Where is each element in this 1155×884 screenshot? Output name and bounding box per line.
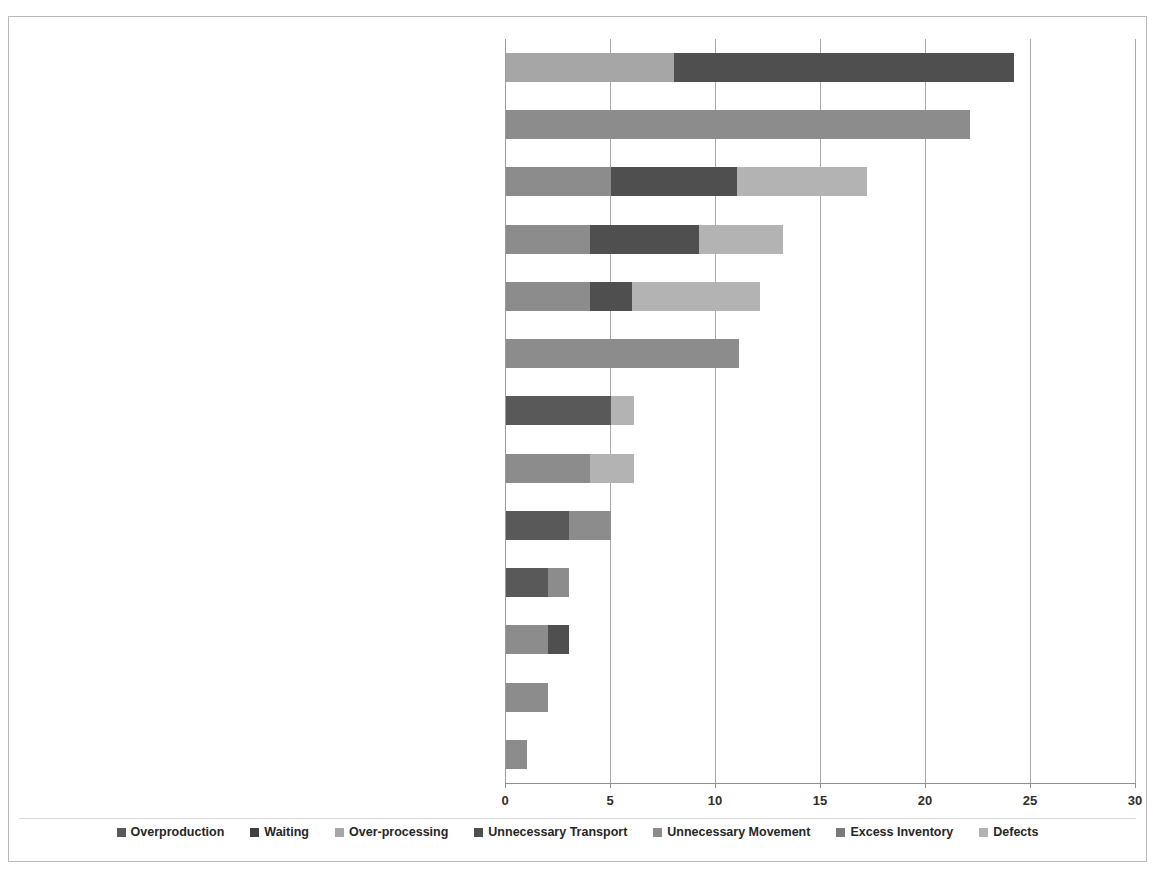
- bar-segment[interactable]: [506, 282, 590, 311]
- legend-swatch-icon: [474, 828, 483, 837]
- legend-item[interactable]: Waiting: [250, 825, 309, 839]
- chart-row: Lack of real-time information: [505, 726, 1135, 783]
- legend-swatch-icon: [653, 828, 662, 837]
- chart-title-clipped: [0, 0, 1155, 14]
- x-axis-tick: [610, 783, 611, 788]
- bar-segment[interactable]: [699, 225, 783, 254]
- x-axis-tick: [715, 783, 716, 788]
- bar-segment[interactable]: [611, 167, 737, 196]
- bar-segment[interactable]: [506, 683, 548, 712]
- bar-segment[interactable]: [548, 568, 569, 597]
- legend-swatch-icon: [979, 828, 988, 837]
- bar-segment[interactable]: [632, 282, 760, 311]
- chart-row: Facility layout and restricted boundarie…: [505, 96, 1135, 153]
- chart-frame: Process designFacility layout and restri…: [8, 16, 1147, 862]
- bar-segment[interactable]: [674, 53, 1014, 82]
- bar-segment[interactable]: [506, 339, 739, 368]
- bar-segment[interactable]: [548, 625, 569, 654]
- bar-segment[interactable]: [506, 167, 611, 196]
- legend-label: Unnecessary Movement: [667, 825, 810, 839]
- legend-label: Excess Inventory: [850, 825, 953, 839]
- chart-row: Mindset / resistance to change: [505, 497, 1135, 554]
- stacked-bar[interactable]: [506, 454, 634, 483]
- stacked-bar[interactable]: [506, 396, 634, 425]
- chart-row: Process design: [505, 39, 1135, 96]
- x-axis-tick-label: 30: [1128, 793, 1142, 808]
- bar-segment[interactable]: [506, 568, 548, 597]
- bar-segment[interactable]: [569, 511, 611, 540]
- chart-legend: OverproductionWaitingOver-processingUnne…: [9, 819, 1146, 845]
- legend-swatch-icon: [836, 828, 845, 837]
- legend-item[interactable]: Excess Inventory: [836, 825, 953, 839]
- bar-segment[interactable]: [590, 282, 632, 311]
- bar-segment[interactable]: [506, 740, 527, 769]
- legend-swatch-icon: [335, 828, 344, 837]
- legend-label: Defects: [993, 825, 1038, 839]
- stacked-bar[interactable]: [506, 625, 569, 654]
- bar-segment[interactable]: [506, 454, 590, 483]
- legend-label: Unnecessary Transport: [488, 825, 627, 839]
- bar-segment[interactable]: [590, 454, 634, 483]
- bar-segment[interactable]: [506, 225, 590, 254]
- chart-row: Poor planning / forecast accuracy: [505, 153, 1135, 210]
- x-axis-tick-label: 20: [918, 793, 932, 808]
- chart-row: Nature of the business/market: [505, 268, 1135, 325]
- chart-row: Related to regional issues: [505, 554, 1135, 611]
- bar-segment[interactable]: [506, 625, 548, 654]
- stacked-bar[interactable]: [506, 282, 760, 311]
- legend-label: Waiting: [264, 825, 309, 839]
- bar-segment[interactable]: [506, 511, 569, 540]
- x-axis-tick: [925, 783, 926, 788]
- plot-area: Process designFacility layout and restri…: [505, 39, 1135, 783]
- bar-segment[interactable]: [506, 53, 674, 82]
- gridline: [1135, 39, 1136, 783]
- stacked-bar[interactable]: [506, 225, 783, 254]
- x-axis-tick-label: 15: [813, 793, 827, 808]
- legend-swatch-icon: [117, 828, 126, 837]
- legend-item[interactable]: Unnecessary Transport: [474, 825, 627, 839]
- x-axis-tick-label: 0: [501, 793, 508, 808]
- legend-item[interactable]: Overproduction: [117, 825, 225, 839]
- bar-segment[interactable]: [611, 396, 634, 425]
- stacked-bar[interactable]: [506, 110, 970, 139]
- x-axis-tick: [505, 783, 506, 788]
- bar-segment[interactable]: [506, 110, 970, 139]
- legend-item[interactable]: Defects: [979, 825, 1038, 839]
- bar-segment[interactable]: [590, 225, 699, 254]
- stacked-bar[interactable]: [506, 511, 611, 540]
- x-axis-tick: [820, 783, 821, 788]
- chart-row: Low reliability/flexibility of productio…: [505, 211, 1135, 268]
- legend-label: Overproduction: [131, 825, 225, 839]
- legend-swatch-icon: [250, 828, 259, 837]
- legend-item[interactable]: Unnecessary Movement: [653, 825, 810, 839]
- stacked-bar[interactable]: [506, 740, 527, 769]
- x-axis-tick: [1135, 783, 1136, 788]
- stacked-bar[interactable]: [506, 339, 739, 368]
- bar-segment[interactable]: [737, 167, 867, 196]
- x-axis-tick-label: 25: [1023, 793, 1037, 808]
- bar-segment[interactable]: [506, 396, 611, 425]
- x-axis-tick-label: 10: [708, 793, 722, 808]
- chart-row: Organisation structure: [505, 611, 1135, 668]
- stacked-bar[interactable]: [506, 167, 867, 196]
- x-axis-tick-label: 5: [606, 793, 613, 808]
- stacked-bar[interactable]: [506, 53, 1014, 82]
- legend-item[interactable]: Over-processing: [335, 825, 448, 839]
- stacked-bar[interactable]: [506, 568, 569, 597]
- chart-row: Reliability of raw materials suppliers: [505, 325, 1135, 382]
- chart-row: Poor staff skills / no multi-tasking: [505, 382, 1135, 439]
- x-axis-tick: [1030, 783, 1031, 788]
- legend-label: Over-processing: [349, 825, 448, 839]
- stacked-bar[interactable]: [506, 683, 548, 712]
- chart-row: Lack of real-time information: [505, 669, 1135, 726]
- chart-row: Limited capacity vs. peak demand: [505, 440, 1135, 497]
